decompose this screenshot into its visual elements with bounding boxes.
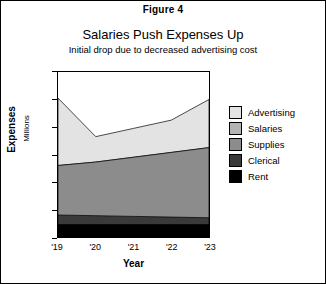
legend-swatch-icon — [229, 138, 242, 151]
x-tick-label: '22 — [166, 242, 178, 252]
x-tick-label: '23 — [204, 242, 216, 252]
chart-legend: AdvertisingSalariesSuppliesClericalRent — [229, 106, 295, 183]
legend-swatch-icon — [229, 170, 242, 183]
x-tick-label: '20 — [89, 242, 101, 252]
y-axis-ticks: 020406080100120 — [0, 0, 57, 284]
legend-label: Clerical — [248, 155, 280, 166]
legend-item: Clerical — [229, 154, 295, 167]
legend-item: Advertising — [229, 106, 295, 119]
legend-swatch-icon — [229, 106, 242, 119]
y-tick-mark — [52, 238, 57, 239]
legend-item: Salaries — [229, 122, 295, 135]
area-series-rent — [58, 225, 209, 237]
legend-swatch-icon — [229, 154, 242, 167]
legend-label: Rent — [248, 171, 268, 182]
legend-label: Supplies — [248, 139, 284, 150]
x-tick-label: '19 — [51, 242, 63, 252]
plot-area — [57, 71, 210, 238]
legend-item: Supplies — [229, 138, 295, 151]
x-tick-label: '21 — [128, 242, 140, 252]
legend-swatch-icon — [229, 122, 242, 135]
stacked-area-chart — [58, 72, 209, 237]
legend-item: Rent — [229, 170, 295, 183]
x-axis-title: Year — [57, 258, 210, 269]
legend-label: Salaries — [248, 123, 282, 134]
legend-label: Advertising — [248, 107, 295, 118]
